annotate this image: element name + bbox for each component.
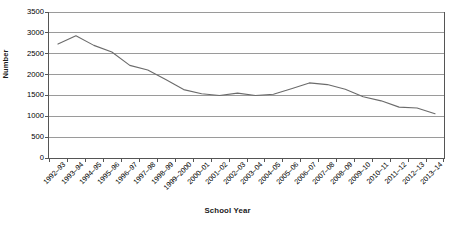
y-axis-tick-mark [45, 137, 49, 138]
y-axis-tick-label: 0 [14, 154, 44, 162]
y-axis-tick-mark [45, 74, 49, 75]
y-axis-tick-mark [45, 12, 49, 13]
y-axis-tick-mark [45, 53, 49, 54]
y-axis-tick-label: 2500 [14, 50, 44, 58]
y-axis-tick-mark [45, 32, 49, 33]
y-axis-tick-mark [45, 95, 49, 96]
y-axis-tick-label: 3000 [14, 29, 44, 37]
y-axis-tick-label: 1000 [14, 112, 44, 120]
y-axis-tick-mark [45, 116, 49, 117]
x-axis-title: School Year [0, 206, 455, 215]
y-axis-tick-label: 500 [14, 133, 44, 141]
y-axis-tick-label: 3500 [14, 8, 44, 16]
data-series-line [49, 12, 444, 158]
y-axis-tick-labels: 0500100015002000250030003500 [14, 0, 44, 229]
x-axis-tick-labels: 1992–931993–941994–951995–961996–971997–… [48, 160, 448, 210]
line-chart: Number 0500100015002000250030003500 1992… [0, 0, 455, 229]
plot-area [48, 12, 445, 159]
y-axis-title: Number [1, 34, 15, 94]
y-axis-tick-label: 2000 [14, 71, 44, 79]
y-axis-tick-label: 1500 [14, 91, 44, 99]
